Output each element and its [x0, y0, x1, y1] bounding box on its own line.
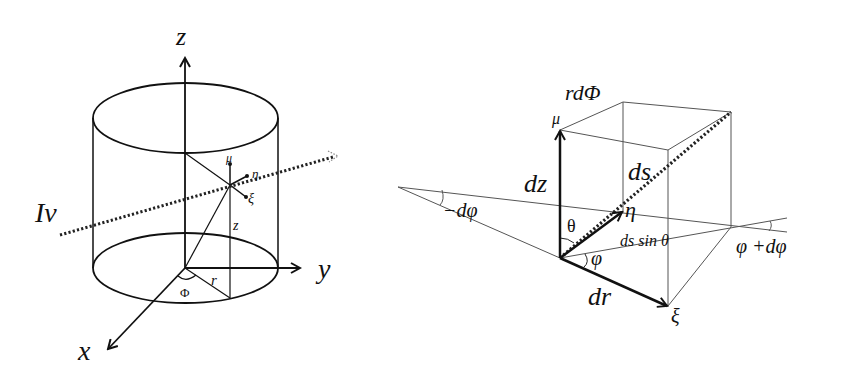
cube-edge: [668, 112, 731, 150]
ds-label: ds: [628, 157, 651, 186]
r-dphi-label: rdΦ: [565, 80, 601, 105]
dr-vector: [560, 258, 667, 306]
phi-angle-label: Φ: [180, 285, 190, 300]
xi-label: ξ: [248, 191, 254, 206]
z-axis-label: z: [175, 22, 186, 51]
y-axis-label: y: [315, 253, 331, 284]
radius-label: r: [211, 272, 217, 288]
eta-axis-tip: [245, 174, 249, 178]
differential-element-figure: rdΦ μ dz ds η θ ds sin θ φ −dφ φ +dφ dr …: [398, 80, 787, 327]
radius-line: [185, 268, 230, 298]
dr-label: dr: [588, 282, 612, 311]
minus-dphi-label: −dφ: [443, 199, 478, 222]
mu-label: μ: [225, 151, 232, 165]
intensity-ray: [60, 157, 333, 235]
theta-label: θ: [567, 216, 576, 236]
dz-label: dz: [524, 169, 547, 198]
cube-edge: [668, 227, 731, 306]
phi-label: φ: [591, 247, 602, 270]
cube-edge: [560, 102, 623, 130]
intensity-label: Iν: [34, 197, 57, 228]
cylinder-figure: z y x Iν μ η ξ z r Φ: [34, 22, 338, 366]
cube-edge: [560, 130, 668, 150]
theta-arc: [560, 238, 574, 243]
eta-axis-label: η: [625, 197, 636, 222]
x-axis: [108, 268, 185, 349]
eta-label: η: [252, 166, 258, 181]
height-label: z: [232, 218, 239, 233]
x-axis-label: x: [77, 335, 91, 366]
cube-edge: [623, 102, 731, 112]
xi-local-axis: [230, 185, 246, 197]
phi-plus-dphi-label: φ +dφ: [736, 235, 787, 258]
mu-axis-label: μ: [551, 110, 560, 128]
z-to-point-line: [185, 153, 230, 185]
ds-sin-theta-label: ds sin θ: [620, 232, 669, 249]
intensity-ray-arrowhead: [328, 151, 338, 162]
phi-angle-arc: [178, 275, 196, 279]
xi-axis-label: ξ: [671, 305, 680, 327]
phi-arc: [584, 254, 587, 267]
diagram-canvas: z y x Iν μ η ξ z r Φ: [0, 0, 847, 371]
